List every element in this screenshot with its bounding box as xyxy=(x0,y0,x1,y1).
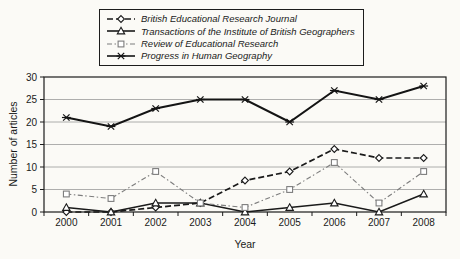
x-axis-title: Year xyxy=(234,238,255,250)
series-line-3 xyxy=(66,163,423,208)
legend-sample-line xyxy=(106,13,136,25)
y-tick-label: 20 xyxy=(26,117,38,128)
xstar-marker-icon xyxy=(330,87,339,93)
legend-label: Transactions of the Institute of British… xyxy=(141,26,355,36)
triangle-marker-icon xyxy=(420,190,427,197)
y-tick-label: 15 xyxy=(26,139,38,150)
diamond-marker-icon xyxy=(331,146,338,153)
xstar-marker-icon xyxy=(419,83,428,89)
xstar-marker-icon xyxy=(117,53,126,59)
legend-label: British Educational Research Journal xyxy=(141,14,297,24)
y-tick-label: 25 xyxy=(26,94,38,105)
xstar-marker-icon xyxy=(375,96,384,102)
diamond-marker-icon xyxy=(242,177,249,184)
square-marker-icon xyxy=(108,196,114,202)
xstar-marker-icon xyxy=(196,96,205,102)
xstar-marker-icon xyxy=(151,105,160,111)
legend-box: British Educational Research JournalTran… xyxy=(99,9,364,66)
square-marker-icon xyxy=(376,200,382,206)
diamond-marker-icon xyxy=(420,155,427,162)
square-marker-icon xyxy=(153,169,159,175)
legend-sample-line xyxy=(106,25,136,37)
legend-label: Progress in Human Geography xyxy=(141,51,272,61)
xstar-marker-icon xyxy=(285,119,294,125)
x-tick-label: 2001 xyxy=(100,217,123,228)
legend-item-4: Progress in Human Geography xyxy=(106,50,355,62)
x-tick-label: 2008 xyxy=(413,217,436,228)
y-tick-label: 0 xyxy=(31,207,37,218)
diamond-marker-icon xyxy=(286,168,293,175)
x-tick-label: 2002 xyxy=(145,217,168,228)
square-marker-icon xyxy=(287,187,293,193)
y-tick-label: 10 xyxy=(26,162,38,173)
chart-canvas: Number of articles 051015202530200020012… xyxy=(0,0,460,259)
xstar-marker-icon xyxy=(62,114,71,120)
square-marker-icon xyxy=(242,205,248,211)
xstar-marker-icon xyxy=(241,96,250,102)
square-marker-icon xyxy=(331,160,337,166)
x-tick-label: 2005 xyxy=(279,217,302,228)
y-tick-label: 30 xyxy=(26,72,38,83)
x-tick-label: 2004 xyxy=(234,217,257,228)
x-tick-label: 2000 xyxy=(55,217,78,228)
y-tick-label: 5 xyxy=(31,184,37,195)
square-marker-icon xyxy=(118,41,124,47)
x-tick-label: 2006 xyxy=(323,217,346,228)
legend-label: Review of Educational Research xyxy=(141,38,278,48)
x-tick-label: 2007 xyxy=(368,217,391,228)
square-marker-icon xyxy=(197,200,203,206)
legend-sample-line xyxy=(106,38,136,50)
xstar-marker-icon xyxy=(107,123,116,129)
legend-item-3: Review of Educational Research xyxy=(106,38,355,50)
square-marker-icon xyxy=(421,169,427,175)
diamond-marker-icon xyxy=(118,16,125,23)
legend-item-2: Transactions of the Institute of British… xyxy=(106,25,355,37)
series-line-4 xyxy=(66,86,423,127)
x-tick-label: 2003 xyxy=(189,217,212,228)
legend-sample-line xyxy=(106,50,136,62)
diamond-marker-icon xyxy=(376,155,383,162)
legend-item-1: British Educational Research Journal xyxy=(106,13,355,25)
square-marker-icon xyxy=(63,191,69,197)
